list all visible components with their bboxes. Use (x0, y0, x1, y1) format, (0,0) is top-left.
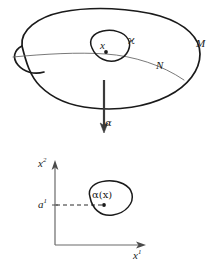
diagram-canvas (0, 0, 215, 272)
manifold-label: M (196, 38, 205, 49)
point-x-label: x (100, 40, 105, 51)
image-set-label: α(x) (92, 190, 112, 200)
axis-horizontal-label-sup: 1 (138, 248, 141, 255)
coordinate-value-label: a1 (38, 199, 47, 210)
neighborhood-u-path (91, 30, 130, 61)
manifold-outline-path (22, 9, 200, 109)
neighborhood-label: ϰ (128, 35, 135, 46)
manifold-chart-figure: M N ϰ x α x2 x1 a1 α(x) (0, 0, 215, 272)
curve-n-label: N (156, 60, 163, 71)
axis-vertical-label: x2 (38, 158, 46, 169)
map-alpha-label: α (105, 118, 112, 128)
coordinate-value-sup: 1 (44, 197, 47, 204)
axis-horizontal-label: x1 (133, 250, 141, 261)
axis-vertical-label-sup: 2 (43, 156, 46, 163)
image-point-dot (102, 203, 106, 207)
